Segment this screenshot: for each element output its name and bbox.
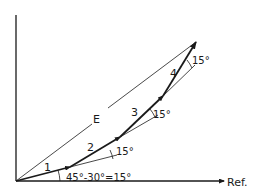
resultant-label: E	[93, 113, 100, 126]
phasor-diagram: Ref. E 1 2 3 4 45°-30°=15° 15° 15° 15°	[0, 0, 262, 196]
vector-1	[16, 167, 70, 181]
angle-label-2: 15°	[116, 146, 134, 157]
angle-label-3: 15°	[153, 109, 171, 120]
angle-arc-1	[58, 170, 60, 181]
vector-1-label: 1	[44, 161, 51, 174]
reference-axis-label: Ref.	[227, 176, 248, 189]
extension-line-1	[70, 155, 117, 167]
angle-label-4: 15°	[192, 55, 210, 66]
resultant-line-upper	[108, 42, 196, 108]
vector-2	[70, 137, 120, 167]
angle-label-1: 45°-30°=15°	[66, 172, 131, 183]
vector-2-label: 2	[87, 141, 94, 154]
vector-3-label: 3	[131, 106, 138, 119]
angle-arc-2	[110, 150, 113, 159]
vector-4-label: 4	[170, 67, 177, 80]
